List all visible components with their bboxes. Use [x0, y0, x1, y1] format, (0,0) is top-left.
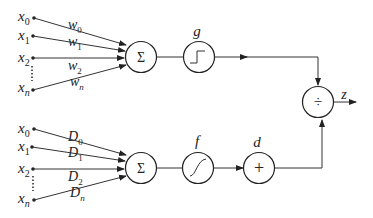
bias-to-divider-link	[275, 120, 323, 168]
bottom-input-label-x1: x1	[17, 138, 30, 157]
divide-icon: ÷	[314, 94, 322, 110]
top-input-label-xn: xn	[17, 79, 30, 98]
output-label-z: z	[340, 87, 347, 102]
weight-label-w1: w1	[68, 34, 82, 52]
top-input-label-x2: x2	[17, 49, 30, 68]
output-stage: ÷ z	[303, 87, 357, 118]
plus-icon: +	[254, 158, 264, 178]
sigma-icon: Σ	[137, 161, 145, 176]
activation-label-f: f	[195, 133, 201, 149]
weight-label-w0: w0	[68, 17, 82, 35]
bottom-branch: x0 x1 x2 xn D0 D1 D2 Dn Σ f d +	[17, 120, 322, 209]
top-branch: x0 x1 x2 xn w0 w1 w2 wn Σ g	[17, 8, 318, 98]
bottom-input-label-x0: x0	[17, 120, 30, 139]
bottom-input-label-xn: xn	[17, 190, 30, 209]
bottom-input-label-x2: x2	[17, 160, 30, 179]
top-input-label-x1: x1	[17, 27, 30, 46]
step-activation-node	[184, 42, 215, 73]
bias-label-d: d	[253, 134, 261, 150]
sigma-icon: Σ	[137, 50, 145, 65]
top-input-label-x0: x0	[17, 8, 30, 27]
top-to-divider-link	[246, 57, 318, 85]
activation-label-g: g	[193, 23, 201, 39]
neuron-diagram: x0 x1 x2 xn w0 w1 w2 wn Σ g	[0, 0, 373, 218]
sigmoid-activation-node	[183, 153, 214, 184]
weight-label-d1: D1	[67, 145, 83, 163]
